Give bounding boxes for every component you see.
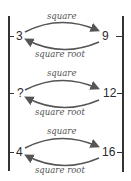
row-3-left-tick (9, 152, 14, 153)
square-arrow-icon (25, 22, 97, 32)
row-1-top-label: square (47, 12, 76, 21)
row-2-left-value: ? (17, 87, 24, 99)
row-1-bottom-label: square root (35, 50, 85, 59)
row-1-right-value: 9 (102, 30, 109, 42)
row-2-right-value: 12 (103, 87, 116, 99)
row-1-arrows (25, 22, 99, 49)
row-2-bottom-label: square root (35, 108, 85, 117)
row-3-arrows (25, 138, 99, 165)
row-2-left-tick (9, 93, 14, 94)
square-arrow-icon (25, 138, 97, 148)
row-3-bottom-label: square root (35, 166, 85, 175)
row-3-right-value: 16 (102, 146, 115, 158)
row-1-left-value: 3 (16, 30, 23, 42)
row-2-top-label: square (47, 69, 76, 78)
row-2-right-tick (117, 93, 122, 94)
row-1-right-tick (116, 36, 122, 37)
row-3-left-value: 4 (16, 146, 23, 158)
row-2-arrows (25, 80, 99, 107)
row-1-left-tick (9, 36, 14, 37)
square-arrow-icon (25, 80, 97, 90)
row-3-right-tick (117, 152, 122, 153)
row-3-top-label: square (47, 127, 76, 136)
